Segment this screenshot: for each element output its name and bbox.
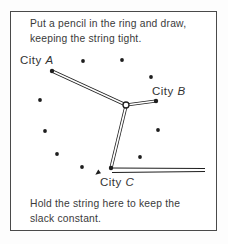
label-city-a-prefix: City — [20, 54, 46, 66]
bottom-caption-line-1: Hold the string here to keep the — [30, 196, 180, 211]
label-city-a-name: A — [46, 54, 54, 66]
map-dot — [55, 152, 59, 156]
slack-string-line — [112, 172, 205, 173]
label-city-b-name: B — [178, 85, 186, 97]
label-city-c: City C — [100, 176, 134, 189]
map-dot — [38, 98, 42, 102]
map-dot — [156, 128, 160, 132]
city-point — [109, 166, 113, 170]
map-dot — [80, 165, 84, 169]
label-city-c-name: C — [126, 176, 135, 188]
map-dot — [138, 155, 142, 159]
bottom-caption-line-2: slack constant. — [30, 211, 180, 226]
slack-string-line — [111, 168, 205, 169]
map-dot — [120, 58, 124, 62]
map-dot — [81, 59, 85, 63]
string-core — [52, 71, 126, 105]
city-c-pointer-icon — [95, 170, 101, 175]
page: Put a pencil in the ring and draw, keepi… — [0, 0, 228, 244]
label-city-b: City B — [152, 85, 186, 98]
pencil-ring — [123, 102, 129, 108]
string-core — [111, 106, 126, 168]
label-city-c-prefix: City — [100, 176, 126, 188]
map-dot — [43, 129, 47, 133]
bottom-caption: Hold the string here to keep the slack c… — [30, 196, 180, 226]
map-dot — [149, 75, 153, 79]
label-city-b-prefix: City — [152, 85, 178, 97]
city-point — [154, 99, 158, 103]
label-city-a: City A — [20, 54, 54, 67]
city-point — [50, 69, 54, 73]
